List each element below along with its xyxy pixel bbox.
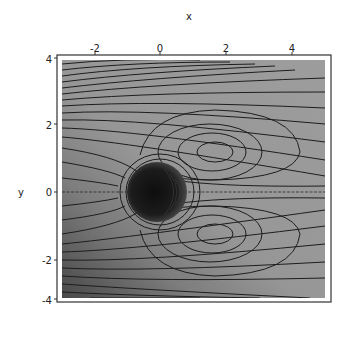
y-tick-label: -2 bbox=[42, 255, 52, 266]
y-tick-label: 4 bbox=[46, 54, 52, 65]
y-tick-label: -4 bbox=[42, 295, 52, 306]
cylinder-region bbox=[127, 162, 187, 222]
y-tick-label: 2 bbox=[46, 120, 52, 131]
y-axis-label: y bbox=[18, 187, 24, 198]
contour-plot: x y -2 0 2 4 4 2 0 -2 -4 bbox=[0, 0, 351, 350]
contour-field bbox=[62, 60, 325, 299]
x-axis-label: x bbox=[186, 11, 192, 22]
y-tick-label: 0 bbox=[46, 187, 52, 198]
